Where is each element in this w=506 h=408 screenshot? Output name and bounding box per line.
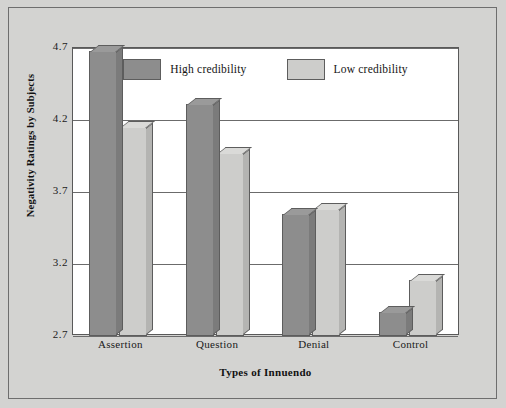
legend-item-low[interactable]: Low credibility [287,59,408,80]
bar-denial-low [312,209,340,336]
y-tick-label: 3.2 [8,256,68,268]
y-tick-label: 2.7 [8,328,68,340]
y-tick-label: 4.7 [8,40,68,52]
y-tick-label: 4.2 [8,112,68,124]
bar-side-face [243,149,250,335]
bar-side-face [436,275,443,335]
legend-swatch [287,59,325,80]
x-tick-label-question: Question [169,338,266,350]
legend: High credibilityLow credibility [72,55,459,83]
legend-swatch [123,59,161,80]
bar-side-face [339,205,346,335]
bar-assertion-low [119,127,147,336]
x-tick-label-denial: Denial [266,338,363,350]
bar-side-face [309,209,316,335]
legend-label: Low credibility [334,63,408,75]
x-tick-label-assertion: Assertion [72,338,169,350]
legend-label: High credibility [170,63,246,75]
gridline [73,48,458,49]
bar-denial-high [282,214,310,336]
x-axis-ticks: AssertionQuestionDenialControl [72,338,459,358]
bar-side-face [116,46,123,335]
bar-side-face [213,100,220,335]
y-axis-ticks: 2.73.23.74.24.7 [4,47,68,335]
bar-control-low [409,280,437,336]
bar-side-face [146,123,153,335]
bar-control-high [379,312,407,336]
legend-item-high[interactable]: High credibility [123,59,246,80]
plot-area [72,47,459,335]
bar-assertion-high [89,51,117,336]
bar-question-high [186,104,214,336]
y-tick-label: 3.7 [8,184,68,196]
figure-canvas: Negativity Ratings by Subjects 2.73.23.7… [0,0,506,408]
x-axis-label: Types of Innuendo [72,366,459,378]
x-tick-label-control: Control [362,338,459,350]
